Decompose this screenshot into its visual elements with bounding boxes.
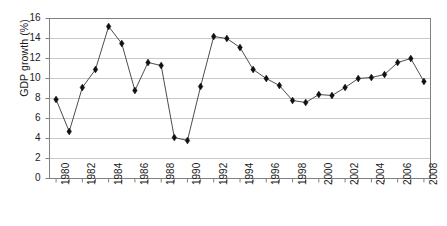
y-tick-label: 6	[19, 112, 41, 123]
x-tick-label: 1986	[139, 162, 150, 184]
y-axis-ticks	[46, 19, 50, 179]
gdp-growth-markers	[54, 23, 426, 144]
y-tick-label: 12	[19, 52, 41, 63]
y-tick-label: 4	[19, 132, 41, 143]
series-polyline	[56, 27, 424, 141]
x-tick-label: 2006	[402, 162, 413, 184]
x-tick-label: 1996	[270, 162, 281, 184]
x-tick-label: 2000	[323, 162, 334, 184]
data-point-marker	[198, 83, 203, 90]
x-tick-label: 1984	[113, 162, 124, 184]
x-tick-label: 2004	[375, 162, 386, 184]
data-point-marker	[225, 35, 230, 42]
data-point-marker	[303, 99, 308, 106]
y-tick-label: 8	[19, 92, 41, 103]
data-point-marker	[54, 96, 59, 103]
gdp-growth-line-series	[56, 27, 424, 141]
x-axis-ticks	[56, 179, 424, 183]
x-tick-label: 2008	[428, 162, 439, 184]
y-tick-label: 16	[19, 12, 41, 23]
data-point-marker	[172, 134, 177, 141]
data-point-marker	[382, 71, 387, 78]
data-point-marker	[395, 59, 400, 66]
x-tick-label: 1998	[297, 162, 308, 184]
x-tick-label: 1990	[191, 162, 202, 184]
y-tick-label: 2	[19, 152, 41, 163]
gridlines-group	[50, 19, 431, 159]
data-point-marker	[317, 91, 322, 98]
x-tick-label: 2002	[349, 162, 360, 184]
x-tick-label: 1992	[218, 162, 229, 184]
data-point-marker	[264, 75, 269, 82]
x-tick-label: 1994	[244, 162, 255, 184]
data-point-marker	[330, 92, 335, 99]
x-tick-label: 1982	[86, 162, 97, 184]
x-tick-label: 1988	[165, 162, 176, 184]
data-point-marker	[159, 62, 164, 69]
gdp-growth-line-chart: GDP growth (%) 0246810121416 19801982198…	[0, 0, 447, 226]
data-point-marker	[369, 74, 374, 81]
x-tick-label: 1980	[60, 162, 71, 184]
chart-canvas	[0, 0, 447, 226]
data-point-marker	[343, 84, 348, 91]
y-tick-label: 0	[19, 172, 41, 183]
y-tick-label: 10	[19, 72, 41, 83]
y-tick-label: 14	[19, 32, 41, 43]
data-point-marker	[67, 128, 72, 135]
data-point-marker	[356, 75, 361, 82]
